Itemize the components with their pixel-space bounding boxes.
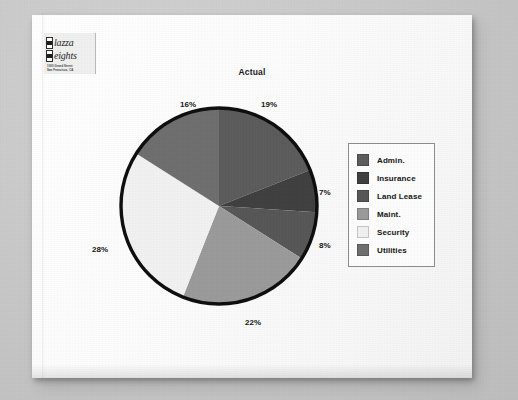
legend-item-label: Land Lease [377,192,422,201]
pie-graphic [118,105,320,307]
legend-item: Maint. [357,205,422,223]
legend-item-label: Maint. [377,210,401,219]
legend-rows: Admin.InsuranceLand LeaseMaint.SecurityU… [357,151,422,259]
legend-item: Utilities [357,241,422,259]
pie-label-admin: 19% [261,100,277,109]
legend-swatch-icon [357,190,369,202]
legend-item-label: Admin. [377,156,405,165]
legend-swatch-icon [357,208,369,220]
legend-item: Admin. [357,151,422,169]
legend-item: Land Lease [357,187,422,205]
legend-swatch-icon [357,154,369,166]
legend-item-label: Insurance [377,174,416,183]
legend-swatch-icon [357,244,369,256]
chart-legend: Admin.InsuranceLand LeaseMaint.SecurityU… [348,143,435,267]
legend-item: Security [357,223,422,241]
pie-label-security: 28% [92,245,108,254]
legend-item: Insurance [357,169,422,187]
pie-label-maint: 22% [245,318,261,327]
document-page: lazza eights 1000 Grand Street San Franc… [32,15,472,378]
legend-swatch-icon [357,226,369,238]
pie-label-utilities: 16% [180,100,196,109]
pie-label-land-lease: 8% [319,241,331,250]
pie-label-insurance: 7% [319,188,331,197]
legend-swatch-icon [357,172,369,184]
pie-svg [118,105,320,307]
legend-item-label: Utilities [377,246,407,255]
legend-item-label: Security [377,228,409,237]
